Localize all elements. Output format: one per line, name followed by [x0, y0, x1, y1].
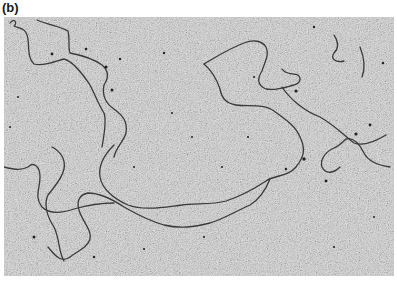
micrograph-image — [4, 17, 394, 276]
panel-label: (b) — [2, 0, 19, 15]
micrograph-background — [4, 17, 394, 276]
